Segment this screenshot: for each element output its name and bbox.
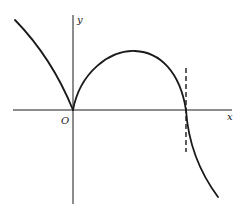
curve-lower-branch (186, 110, 218, 197)
curve-left-branch (15, 20, 73, 110)
curve-hump (73, 51, 186, 110)
origin-label: O (61, 115, 69, 126)
y-axis-label: y (76, 14, 83, 25)
graph-canvas: y x O (0, 0, 240, 211)
x-axis-label: x (227, 111, 233, 122)
graph-svg: y x O (0, 0, 240, 211)
